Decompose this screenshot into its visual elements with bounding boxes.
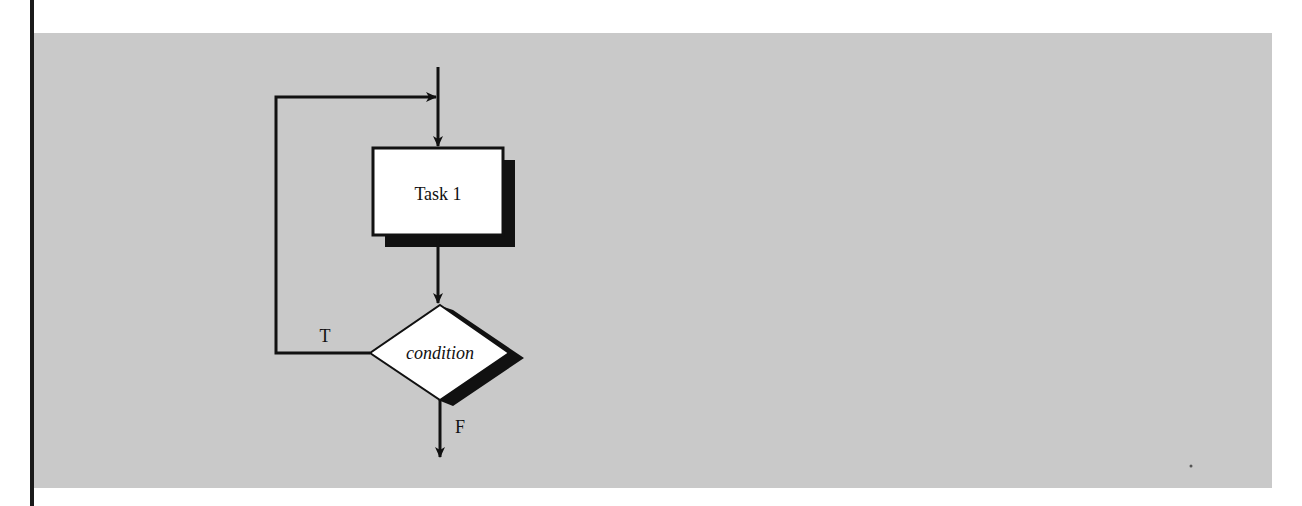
condition-label: condition	[406, 343, 474, 363]
true-branch-label: T	[320, 326, 331, 346]
false-branch-label: F	[455, 417, 465, 437]
flowchart: Task 1 condition T F	[0, 0, 1302, 506]
task-label: Task 1	[414, 184, 461, 204]
scan-speck	[1190, 465, 1193, 468]
